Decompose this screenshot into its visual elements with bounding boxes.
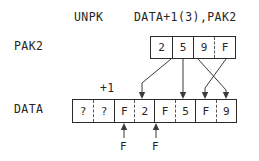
instruction-operands: DATA+1(3),PAK2: [134, 12, 237, 24]
data-cell: F: [114, 100, 134, 122]
fill-flag-label: F: [120, 140, 127, 153]
data-row-label: DATA: [14, 104, 43, 116]
arrow-digit-5: [180, 59, 186, 99]
instruction-mnemonic: UNPK: [74, 12, 103, 24]
data-cell: 9: [216, 100, 236, 122]
pak2-memory-field: 2 5 9 F: [150, 36, 236, 59]
data-cell: ?: [93, 100, 113, 122]
data-cell: 5: [175, 100, 195, 122]
data-cell: ?: [73, 100, 93, 122]
arrow-layer: [0, 0, 259, 161]
data-cell: F: [154, 100, 174, 122]
pak2-row-label: PAK2: [14, 41, 43, 53]
pak2-cell: 5: [172, 37, 193, 58]
fill-arrow-2: [153, 123, 159, 138]
pak2-cell: 9: [193, 37, 214, 58]
data-memory-field: ? ? F 2 F 5 F 9: [72, 99, 237, 123]
offset-annotation: +1: [100, 83, 115, 95]
fill-flag-label: F: [152, 140, 159, 153]
unpk-instruction-diagram: UNPK DATA+1(3),PAK2 PAK2 DATA +1 2 5 9 F…: [0, 0, 259, 161]
pak2-cell: F: [214, 37, 235, 58]
arrow-digit-2: [139, 59, 171, 99]
fill-arrow-1: [121, 123, 127, 138]
arrow-sign-F: [202, 59, 226, 99]
arrow-digit-9: [198, 59, 229, 99]
pak2-cell: 2: [151, 37, 172, 58]
data-cell: 2: [134, 100, 154, 122]
data-cell: F: [195, 100, 215, 122]
